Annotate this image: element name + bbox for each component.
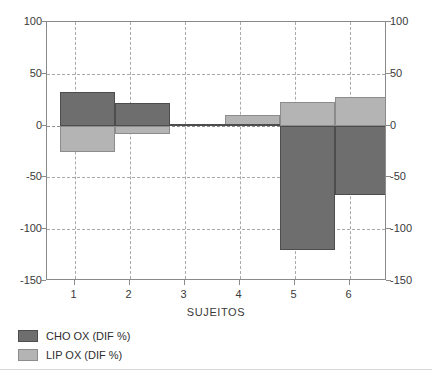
chart-legend: CHO OX (DIF %) LIP OX (DIF %) bbox=[18, 326, 130, 364]
bar-cho-1 bbox=[60, 92, 115, 125]
gridline-vertical bbox=[240, 22, 241, 279]
bar-lip-6 bbox=[335, 97, 386, 126]
bar-cho-6 bbox=[335, 126, 386, 195]
legend-swatch-icon-lip bbox=[18, 349, 38, 361]
legend-label-cho: CHO OX (DIF %) bbox=[46, 330, 130, 342]
bar-lip-5 bbox=[280, 102, 335, 126]
y-axis-right-tick-mark bbox=[386, 176, 391, 177]
chart-page: 100 50 0 -50 -100 -150 100 50 0 -50 -100… bbox=[0, 0, 432, 379]
x-axis-tick-label-6: 6 bbox=[334, 288, 364, 300]
x-axis-tick-mark bbox=[74, 280, 75, 285]
plot-area bbox=[46, 21, 386, 280]
y-axis-right-tick-label: 50 bbox=[390, 67, 432, 79]
y-axis-right-tick-label: -50 bbox=[390, 170, 432, 182]
x-axis-tick-mark bbox=[349, 280, 350, 285]
x-axis-tick-label-2: 2 bbox=[114, 288, 144, 300]
x-axis-tick-mark bbox=[294, 280, 295, 285]
y-axis-left-tick-label: -50 bbox=[0, 170, 42, 182]
x-axis bbox=[46, 280, 386, 286]
y-axis-left-tick-label: -150 bbox=[0, 274, 42, 286]
y-axis-right-tick-mark bbox=[386, 228, 391, 229]
bar-lip-1 bbox=[60, 126, 115, 153]
x-axis-tick-label-5: 5 bbox=[279, 288, 309, 300]
x-axis-tick-label-3: 3 bbox=[169, 288, 199, 300]
y-axis-right-tick-label: -100 bbox=[390, 222, 432, 234]
y-axis-right-tick-label: 100 bbox=[390, 15, 432, 27]
y-axis-left-tick-label: 50 bbox=[0, 67, 42, 79]
x-axis-title: SUJEITOS bbox=[46, 306, 386, 318]
gridline-horizontal bbox=[47, 74, 385, 75]
x-axis-tick-label-4: 4 bbox=[224, 288, 254, 300]
legend-item-cho-ox: CHO OX (DIF %) bbox=[18, 326, 130, 345]
y-axis-right-tick-mark bbox=[386, 280, 391, 281]
y-axis-left-tick-label: 100 bbox=[0, 15, 42, 27]
y-axis-right: 100 50 0 -50 -100 -150 bbox=[390, 21, 432, 280]
x-axis-tick-mark bbox=[129, 280, 130, 285]
gridline-vertical bbox=[130, 22, 131, 279]
y-axis-right-tick-mark bbox=[386, 21, 391, 22]
y-axis-left-tick-label: -100 bbox=[0, 222, 42, 234]
legend-item-lip-ox: LIP OX (DIF %) bbox=[18, 345, 130, 364]
bar-cho-5 bbox=[280, 126, 335, 250]
y-axis-right-tick-label: 0 bbox=[390, 119, 432, 131]
y-axis-right-tick-mark bbox=[386, 73, 391, 74]
y-axis-left-tick-label: 0 bbox=[0, 119, 42, 131]
x-axis-tick-mark bbox=[239, 280, 240, 285]
x-axis-tick-mark bbox=[184, 280, 185, 285]
bar-lip-2 bbox=[115, 126, 170, 134]
gridline-vertical bbox=[185, 22, 186, 279]
bottom-divider bbox=[0, 369, 432, 370]
legend-label-lip: LIP OX (DIF %) bbox=[46, 349, 122, 361]
bar-cho-2 bbox=[115, 103, 170, 126]
y-axis-right-tick-label: -150 bbox=[390, 274, 432, 286]
y-axis-left: 100 50 0 -50 -100 -150 bbox=[0, 21, 42, 280]
y-axis-right-tick-mark bbox=[386, 125, 391, 126]
bar-cho-3 bbox=[170, 124, 225, 126]
bar-cho-4 bbox=[225, 124, 280, 126]
x-axis-tick-label-1: 1 bbox=[59, 288, 89, 300]
legend-swatch-icon-cho bbox=[18, 330, 38, 342]
